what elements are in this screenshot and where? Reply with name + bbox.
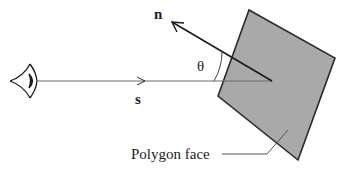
polygon-label: Polygon face <box>131 146 210 162</box>
eye-icon <box>10 64 37 98</box>
view-label: s <box>135 91 141 107</box>
normal-label: n <box>154 6 163 22</box>
angle-arc <box>214 52 222 81</box>
lighting-diagram: n s θ Polygon face <box>0 0 345 170</box>
polygon-face <box>218 10 335 160</box>
angle-label: θ <box>197 58 204 74</box>
